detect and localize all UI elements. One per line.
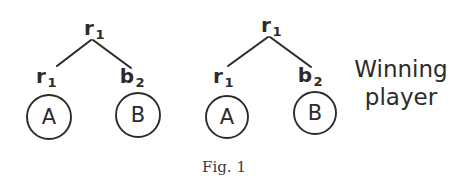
tree-left-root-label: r 1 xyxy=(84,16,104,42)
tree-right-branch-label-a-base: r xyxy=(213,64,223,88)
tree-left-root-label-subscript: 1 xyxy=(95,27,104,42)
tree-right-node-a-letter: A xyxy=(220,105,235,129)
tree-left-node-a: A xyxy=(27,95,71,139)
tree-left-branch-label-a-subscript: 1 xyxy=(47,75,56,90)
winning-player-annotation-line2: player xyxy=(365,84,438,110)
tree-right-root-label-base: r xyxy=(261,13,271,37)
winning-player-annotation: Winning player xyxy=(354,56,447,110)
tree-right-branch-label-a: r 1 xyxy=(213,64,233,90)
tree-left: r 1 r 1 b 2 A B xyxy=(27,16,160,139)
figure-diagram: r 1 r 1 b 2 A B xyxy=(0,0,466,193)
figure-canvas: r 1 r 1 b 2 A B xyxy=(0,0,466,193)
tree-left-node-b: B xyxy=(116,93,160,137)
tree-left-branch-label-a-base: r xyxy=(36,64,46,88)
winning-player-annotation-line1: Winning xyxy=(354,56,447,82)
tree-left-branch-label-b: b 2 xyxy=(120,64,145,90)
tree-right-branch-label-b-subscript: 2 xyxy=(313,74,322,89)
tree-right-node-b: B xyxy=(294,92,336,134)
tree-right-branch-label-b-base: b xyxy=(298,63,312,87)
tree-right: r 1 r 1 b 2 A B xyxy=(206,13,336,138)
tree-right-branch-label-b: b 2 xyxy=(298,63,323,89)
tree-left-root-label-base: r xyxy=(84,16,94,40)
tree-right-root-label: r 1 xyxy=(261,13,281,39)
tree-right-branch-label-a-subscript: 1 xyxy=(224,75,233,90)
tree-left-node-a-letter: A xyxy=(42,105,57,129)
tree-left-edge-to-a xyxy=(57,40,91,66)
tree-left-branch-label-b-base: b xyxy=(120,64,134,88)
tree-left-branch-label-a: r 1 xyxy=(36,64,56,90)
tree-left-node-b-letter: B xyxy=(131,103,145,127)
tree-left-branch-label-b-subscript: 2 xyxy=(135,75,144,90)
tree-right-root-label-subscript: 1 xyxy=(272,24,281,39)
tree-right-edge-to-a xyxy=(228,37,268,66)
tree-right-node-a: A xyxy=(206,96,248,138)
figure-caption: Fig. 1 xyxy=(202,158,246,176)
tree-right-node-b-letter: B xyxy=(308,101,322,125)
